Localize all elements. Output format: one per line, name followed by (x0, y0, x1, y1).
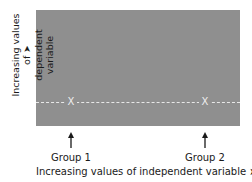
x-axis-label: Increasing values of independent variabl… (36, 166, 252, 177)
up-arrow-icon (200, 132, 210, 148)
right-arrow-icon: ➤ (22, 45, 32, 53)
group1-marker: X (65, 96, 77, 108)
right-arrow-icon: ➤ (249, 166, 252, 177)
plot-area: X X (36, 10, 240, 126)
group2-marker: X (199, 96, 211, 108)
group1-label: Group 1 (41, 152, 101, 163)
y-axis-label: Increasing values of ➤ dependent variabl… (10, 10, 55, 100)
up-arrow-icon (66, 132, 76, 148)
group2-label: Group 2 (175, 152, 235, 163)
